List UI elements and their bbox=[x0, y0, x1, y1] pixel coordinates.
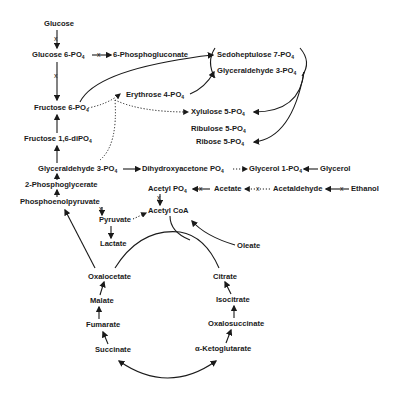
node-acetaldehyde: Acetaldehyde bbox=[273, 184, 322, 193]
node-dihydroxyacetone-phosphate: Dihydroxyacetone PO4 bbox=[142, 164, 224, 174]
node-glycerol: Glycerol bbox=[320, 164, 350, 173]
node-fructose-6-phosphate: Fructose 6-PO4 bbox=[34, 103, 89, 113]
blocked-marker: x bbox=[199, 185, 203, 192]
node-ribose-5-phosphate: Ribose 5-PO4 bbox=[196, 137, 244, 147]
node-glyceraldehyde-3-phosphate: Glyceraldehyde 3-PO4 bbox=[38, 164, 117, 174]
arrow-succinate-to-fumarate bbox=[103, 332, 108, 344]
node-fumarate: Fumarate bbox=[86, 320, 120, 329]
blocked-marker: x bbox=[54, 35, 58, 42]
node-isocitrate: Isocitrate bbox=[216, 295, 250, 304]
node-glucose: Glucose bbox=[44, 19, 74, 28]
node-fructose-1-6-diphosphate: Fructose 1,6-diPO4 bbox=[24, 134, 92, 144]
node-2-phosphoglycerate: 2-Phosphoglycerate bbox=[25, 180, 98, 189]
blocked-marker: x bbox=[99, 205, 103, 212]
arrow-phosphogluconate-to-sedoheptulose bbox=[190, 55, 213, 58]
node-sedoheptulose-7-phosphate: Sedoheptulose 7-PO4 bbox=[217, 50, 294, 60]
node-oleate: Oleate bbox=[237, 241, 260, 250]
arrow-bracket-to-ribose bbox=[254, 72, 304, 142]
arrow-f6p-to-erythrose bbox=[88, 94, 120, 108]
arrow-oleate-to-acetylcoa bbox=[192, 221, 235, 245]
node-pyruvate: Pyruvate bbox=[99, 215, 131, 224]
arrow-to-xylulose bbox=[115, 100, 188, 112]
node-citrate: Citrate bbox=[213, 272, 237, 281]
node-oxalosuccinate: Oxalosuccinate bbox=[208, 319, 264, 328]
arc-succinate-akg bbox=[119, 361, 216, 378]
node-glycerol-1-phosphate: Glycerol 1-PO4 bbox=[249, 164, 302, 174]
node-succinate: Succinate bbox=[95, 345, 131, 354]
node-acetyl-coa: Acetyl CoA bbox=[148, 206, 189, 215]
blocked-marker: x bbox=[256, 185, 260, 192]
arrow-akg-to-oxalosuccinate bbox=[226, 330, 231, 343]
blocked-marker: x bbox=[97, 51, 101, 58]
blocked-marker: x bbox=[340, 185, 344, 192]
node-glyceraldehyde-3-phosphate-top: Glyceraldehyde 3-PO4 bbox=[217, 66, 296, 76]
node-ethanol: Ethanol bbox=[351, 184, 379, 193]
node-6-phosphogluconate: 6-Phosphogluconate bbox=[113, 50, 188, 59]
arrow-isocitrate-to-citrate bbox=[225, 282, 231, 294]
node-glucose-6-phosphate: Glucose 6-PO4 bbox=[32, 50, 85, 60]
bracket-left bbox=[211, 48, 216, 78]
node-acetate: Acetate bbox=[214, 184, 241, 193]
arc-oxalocetate-to-citrate bbox=[115, 232, 219, 268]
node-acetyl-phosphate: Acetyl PO4 bbox=[148, 184, 187, 194]
dotted-g3p-to-erythrose bbox=[100, 100, 115, 160]
node-erythrose-4-phosphate: Erythrose 4-PO4 bbox=[126, 90, 184, 100]
node-ribulose-5-phosphate: Ribulose 5-PO4 bbox=[191, 124, 246, 134]
arrow-bracket-to-xylulose bbox=[254, 72, 304, 112]
node-xylulose-5-phosphate: Xylulose 5-PO4 bbox=[191, 107, 245, 117]
node-oxalocetate: Oxalocetate bbox=[88, 272, 131, 281]
metabolic-pathway-diagram: Glucose Glucose 6-PO4 6-Phosphogluconate… bbox=[0, 0, 403, 399]
node-alpha-ketoglutarate: α-Ketoglutarate bbox=[195, 344, 251, 353]
arrow-oxalocetate-to-pep bbox=[65, 210, 95, 268]
node-lactate: Lactate bbox=[100, 239, 127, 248]
line-acetylcoa-to-arc bbox=[170, 216, 190, 240]
node-malate: Malate bbox=[90, 296, 114, 305]
arrow-erythrose-to-g3p bbox=[190, 72, 214, 94]
blocked-marker: x bbox=[157, 194, 161, 201]
arrow-malate-to-oxalocetate bbox=[100, 282, 104, 295]
node-phosphoenolpyruvate: Phosphoenolpyruvate bbox=[20, 197, 100, 206]
bracket-right bbox=[300, 48, 307, 76]
blocked-marker: x bbox=[54, 72, 58, 79]
arrow-pyruvate-to-acetylcoa bbox=[133, 213, 146, 219]
